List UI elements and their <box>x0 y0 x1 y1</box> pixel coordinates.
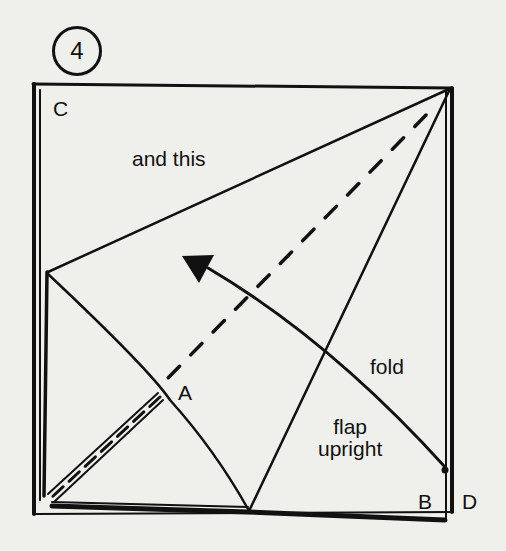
flap-text: flap <box>318 416 382 438</box>
corner-label-a: A <box>178 382 192 403</box>
instruction-fold: fold <box>370 356 404 377</box>
corner-label-b: B <box>418 491 432 512</box>
step-number-badge: 4 <box>52 26 102 76</box>
fold-direction-arrow <box>182 255 449 474</box>
instruction-and-this: and this <box>132 148 206 169</box>
corner-label-c: C <box>53 98 68 119</box>
corner-label-d: D <box>462 491 477 512</box>
upright-text: upright <box>318 438 382 460</box>
instruction-flap-upright: flap upright <box>318 416 382 460</box>
step-number-text: 4 <box>70 37 83 65</box>
valley-fold-dashed-line <box>168 115 426 378</box>
origami-diagram <box>0 0 506 551</box>
